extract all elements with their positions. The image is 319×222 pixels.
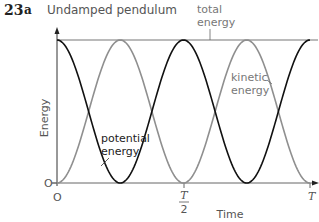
total-energy-label-line1: total bbox=[197, 3, 222, 16]
potential-energy-curve bbox=[57, 40, 310, 183]
x-tick-label-origin: O bbox=[53, 191, 62, 204]
kinetic-energy-curve bbox=[57, 40, 310, 183]
y-tick-label-origin: O bbox=[44, 177, 53, 190]
total-energy-label-line2: energy bbox=[197, 16, 236, 29]
x-axis-label: Time bbox=[216, 208, 244, 221]
x-tick-label-T: T bbox=[308, 190, 317, 203]
y-axis-label: Energy bbox=[38, 98, 51, 137]
x-axis-arrow-icon bbox=[312, 181, 319, 186]
potential-energy-label-line1: potential bbox=[101, 132, 150, 145]
x-tick-label-half-T-numerator: T bbox=[180, 189, 189, 202]
y-axis-arrow-icon bbox=[55, 27, 60, 34]
kinetic-energy-label-line2: energy bbox=[231, 84, 270, 97]
potential-energy-label-line2: energy bbox=[101, 145, 140, 158]
energy-chart: total energy kinetic energy potential en… bbox=[0, 0, 319, 222]
kinetic-energy-label-line1: kinetic bbox=[231, 71, 268, 84]
x-tick-label-half-T-denominator: 2 bbox=[181, 203, 188, 216]
